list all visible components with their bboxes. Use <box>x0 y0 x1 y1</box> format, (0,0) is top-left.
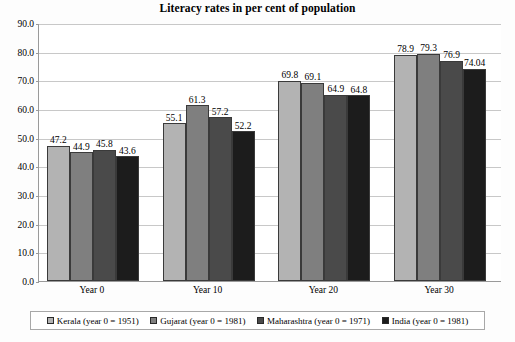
legend-item[interactable]: India (year 0 = 1981) <box>382 316 469 326</box>
legend-item[interactable]: Gujarat (year 0 = 1981) <box>150 316 245 326</box>
bar: 74.04 <box>463 69 486 281</box>
bar: 69.8 <box>278 81 301 281</box>
bar: 69.1 <box>301 83 324 281</box>
y-axis-tick-label: 0.0 <box>0 277 34 287</box>
legend-label: Maharashtra (year 0 = 1971) <box>267 316 370 326</box>
y-axis-tick <box>36 196 39 197</box>
y-axis-tick-label: 10.0 <box>0 248 34 258</box>
bar: 79.3 <box>417 54 440 281</box>
plot-area: 47.244.945.843.655.161.357.252.269.869.1… <box>38 24 501 282</box>
y-axis-tick <box>36 81 39 82</box>
bar: 47.2 <box>47 146 70 281</box>
y-axis-tick <box>36 282 39 283</box>
bar-value-label: 45.8 <box>96 140 113 150</box>
x-axis-tick-label: Year 0 <box>80 285 105 295</box>
y-axis-tick <box>36 24 39 25</box>
legend-item[interactable]: Kerala (year 0 = 1951) <box>47 316 139 326</box>
bar-value-label: 79.3 <box>420 44 437 54</box>
bar-value-label: 64.8 <box>351 86 368 96</box>
y-axis-tick <box>36 253 39 254</box>
bar: 78.9 <box>394 55 417 281</box>
bar-value-label: 57.2 <box>212 108 229 118</box>
y-axis-tick-label: 70.0 <box>0 76 34 86</box>
bar: 55.1 <box>163 123 186 281</box>
legend-item[interactable]: Maharashtra (year 0 = 1971) <box>257 316 370 326</box>
y-axis-tick-label: 80.0 <box>0 48 34 58</box>
y-axis-tick <box>36 110 39 111</box>
chart-title: Literacy rates in per cent of population <box>0 2 515 14</box>
y-axis-tick-label: 50.0 <box>0 134 34 144</box>
bar-value-label: 44.9 <box>73 143 90 153</box>
bar-value-label: 74.04 <box>464 59 485 69</box>
legend-label: India (year 0 = 1981) <box>392 316 469 326</box>
x-axis-tick-label: Year 20 <box>309 285 338 295</box>
bar: 61.3 <box>186 105 209 281</box>
chart-legend: Kerala (year 0 = 1951)Gujarat (year 0 = … <box>30 311 485 330</box>
x-axis-tick-label: Year 10 <box>193 285 222 295</box>
legend-swatch-icon <box>382 317 389 324</box>
y-axis-tick <box>36 139 39 140</box>
bar-value-label: 43.6 <box>119 147 136 157</box>
y-axis-tick-label: 90.0 <box>0 19 34 29</box>
bar-value-label: 55.1 <box>166 114 183 124</box>
y-axis-tick-label: 40.0 <box>0 162 34 172</box>
x-axis: Year 0Year 10Year 20Year 30 <box>38 285 501 301</box>
bar-value-label: 76.9 <box>443 51 460 61</box>
bar: 43.6 <box>116 156 139 281</box>
legend-swatch-icon <box>47 317 54 324</box>
bar: 76.9 <box>440 61 463 281</box>
bar-value-label: 69.1 <box>305 73 322 83</box>
bar: 45.8 <box>93 150 116 281</box>
y-axis-tick-label: 30.0 <box>0 191 34 201</box>
legend-label: Gujarat (year 0 = 1981) <box>160 316 245 326</box>
chart-container: Literacy rates in per cent of population… <box>0 0 515 342</box>
bar: 57.2 <box>209 117 232 281</box>
bar-value-label: 69.8 <box>282 71 299 81</box>
legend-swatch-icon <box>257 317 264 324</box>
bar: 64.8 <box>347 95 370 281</box>
bar-value-label: 61.3 <box>189 96 206 106</box>
bar: 52.2 <box>232 131 255 281</box>
bar: 64.9 <box>324 95 347 281</box>
bar-value-label: 78.9 <box>397 45 414 55</box>
y-axis: 0.010.020.030.040.050.060.070.080.090.0 <box>0 24 34 282</box>
bar-value-label: 52.2 <box>235 122 252 132</box>
legend-swatch-icon <box>150 317 157 324</box>
y-axis-tick <box>36 225 39 226</box>
bar-value-label: 64.9 <box>328 85 345 95</box>
y-axis-tick-label: 60.0 <box>0 105 34 115</box>
bar-value-label: 47.2 <box>50 136 67 146</box>
legend-label: Kerala (year 0 = 1951) <box>57 316 139 326</box>
x-axis-tick-label: Year 30 <box>424 285 453 295</box>
y-axis-tick-label: 20.0 <box>0 220 34 230</box>
y-axis-tick <box>36 53 39 54</box>
y-axis-tick <box>36 167 39 168</box>
bars-layer: 47.244.945.843.655.161.357.252.269.869.1… <box>39 24 501 281</box>
bar: 44.9 <box>70 152 93 281</box>
